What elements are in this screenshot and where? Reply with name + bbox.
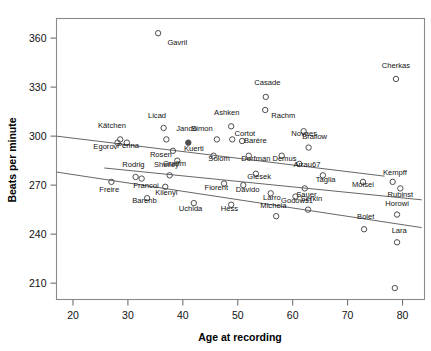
data-point xyxy=(361,227,366,232)
point-label: Lara xyxy=(392,226,408,235)
x-tick-label: 20 xyxy=(67,309,79,321)
point-labels: GavrilCherkasCasadeRachmAshkenLicadKätch… xyxy=(93,38,414,235)
point-label: Solom xyxy=(208,154,230,163)
x-tick-label: 40 xyxy=(177,309,189,321)
point-label: Fiorent xyxy=(205,183,230,192)
y-axis-title: Beats per minute xyxy=(6,117,18,202)
point-label: Licad xyxy=(148,111,166,120)
data-point xyxy=(214,137,219,142)
point-label: Ashken xyxy=(214,108,239,117)
chart-root: 20304050607080 210240270300330360 Gavril… xyxy=(0,0,431,351)
point-label: Giesek xyxy=(247,172,271,181)
scatter-plot: 20304050607080 210240270300330360 Gavril… xyxy=(0,0,431,351)
point-label: Cherkas xyxy=(382,61,410,70)
data-point xyxy=(133,174,138,179)
data-point xyxy=(164,137,169,142)
data-point xyxy=(306,145,311,150)
data-point xyxy=(263,107,268,112)
data-point xyxy=(394,212,399,217)
point-label: Arrau67 xyxy=(293,160,320,169)
point-label: Rubinst xyxy=(387,190,414,199)
point-label: Kätchen xyxy=(98,121,126,130)
point-label: Penna xyxy=(117,141,140,150)
point-label: Simon xyxy=(191,124,213,133)
point-label: Casade xyxy=(254,78,280,87)
data-point xyxy=(394,240,399,245)
x-tick-label: 80 xyxy=(397,309,409,321)
y-tick-label: 210 xyxy=(29,277,47,289)
x-axis-ticks: 20304050607080 xyxy=(67,300,408,321)
data-point xyxy=(167,173,172,178)
y-tick-label: 330 xyxy=(29,81,47,93)
data-point xyxy=(392,285,397,290)
point-label: Davido xyxy=(236,185,260,194)
y-tick-label: 270 xyxy=(29,179,47,191)
point-label: Shelley xyxy=(154,160,179,169)
point-label: Rachm xyxy=(271,111,295,120)
point-label: Freire xyxy=(99,185,119,194)
data-point xyxy=(390,179,395,184)
x-tick-label: 30 xyxy=(122,309,134,321)
point-label: Brailow xyxy=(302,132,327,141)
point-label: Hess xyxy=(221,204,239,213)
point-label: Serkin xyxy=(301,194,323,203)
data-point xyxy=(393,76,398,81)
point-label: Barenb xyxy=(132,196,157,205)
point-label: Horowi xyxy=(385,199,409,208)
point-label: Kilenyi xyxy=(155,188,178,197)
y-axis-ticks: 210240270300330360 xyxy=(29,32,57,289)
point-label: Michela xyxy=(260,201,287,210)
point-label: Kuerti xyxy=(184,144,204,153)
data-point xyxy=(228,124,233,129)
point-label: Kempff xyxy=(383,168,408,177)
point-label: Uchida xyxy=(179,204,203,213)
data-point xyxy=(161,125,166,130)
point-label: Barère xyxy=(244,136,267,145)
x-tick-label: 60 xyxy=(287,309,299,321)
data-point xyxy=(263,94,268,99)
point-label: Bolet xyxy=(357,212,375,221)
point-label: Egorov xyxy=(93,142,117,151)
data-point xyxy=(155,31,160,36)
x-axis-title: Age at recording xyxy=(198,331,281,343)
point-label: Gavril xyxy=(167,38,187,47)
point-label: Taglia xyxy=(316,175,337,184)
data-point xyxy=(274,213,279,218)
y-tick-label: 300 xyxy=(29,130,47,142)
point-label: Dorfman xyxy=(241,154,270,163)
y-tick-label: 360 xyxy=(29,32,47,44)
y-tick-label: 240 xyxy=(29,228,47,240)
point-label: Moisei xyxy=(352,180,374,189)
point-label: Rodrig xyxy=(122,160,144,169)
x-tick-label: 70 xyxy=(342,309,354,321)
x-tick-label: 50 xyxy=(232,309,244,321)
